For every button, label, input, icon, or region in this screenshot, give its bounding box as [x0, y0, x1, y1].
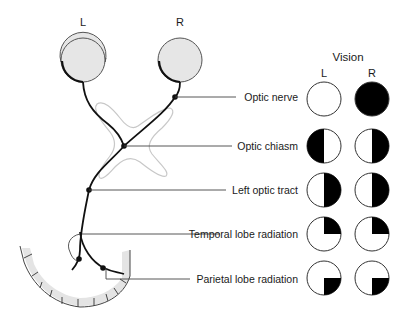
lesion-label-parietal-radiation: Parietal lobe radiation: [196, 273, 298, 285]
visual-field-left-eye: [307, 217, 341, 251]
temporal-radiation-dot: [76, 256, 82, 262]
visual-field-defect: [372, 173, 389, 207]
visual-field-right-eye: [355, 129, 389, 163]
visual-field-defect: [372, 129, 389, 163]
visual-pathway-diagram: L R: [0, 0, 419, 324]
visual-field-defect: [372, 217, 389, 234]
vision-col-right: R: [368, 67, 376, 79]
visual-field-left-eye: [307, 129, 341, 163]
vision-title: Vision: [332, 51, 363, 63]
lesion-label-temporal-radiation: Temporal lobe radiation: [189, 228, 298, 240]
visual-field-defect: [324, 217, 341, 234]
visual-field-defect: [324, 278, 341, 295]
lesion-label-optic-nerve: Optic nerve: [244, 91, 298, 103]
parietal-radiation-dot: [100, 265, 106, 271]
lesion-label-optic-tract: Left optic tract: [232, 184, 298, 196]
lesion-label-optic-chiasm: Optic chiasm: [237, 140, 298, 152]
vision-col-left: L: [321, 67, 327, 79]
occipital-cortex: [20, 246, 130, 307]
visual-pathway: [72, 82, 180, 274]
visual-field-left-eye: [307, 261, 341, 295]
visual-field-circle: [307, 82, 341, 116]
visual-field-circle: [355, 82, 389, 116]
visual-field-defect: [307, 129, 324, 163]
visual-field-left-eye: [307, 82, 341, 116]
visual-field-right-eye: [355, 173, 389, 207]
visual-field-right-eye: [355, 217, 389, 251]
visual-field-defect: [372, 278, 389, 295]
right-eye-label: R: [176, 16, 184, 28]
visual-field-defect: [324, 173, 341, 207]
left-eye-label: L: [80, 16, 86, 28]
visual-field-left-eye: [307, 173, 341, 207]
left-eye: [60, 32, 106, 82]
visual-fields: [307, 82, 389, 295]
right-eye: [158, 38, 202, 82]
visual-field-right-eye: [355, 261, 389, 295]
visual-field-right-eye: [355, 82, 389, 116]
